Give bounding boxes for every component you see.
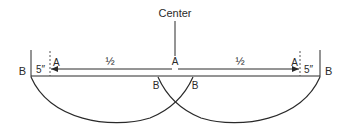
right-arc	[158, 77, 320, 123]
arc-layout-diagram: Center A A A B B B B ½ ½ 5″ 5″	[0, 0, 348, 137]
label-a-center: A	[172, 56, 179, 67]
label-half-left: ½	[105, 55, 114, 67]
label-b-inner-left: B	[153, 80, 160, 91]
label-b-inner-right: B	[192, 80, 199, 91]
label-a-left: A	[53, 57, 60, 68]
label-half-right: ½	[235, 55, 244, 67]
label-b-left: B	[19, 65, 26, 77]
left-arc	[31, 77, 193, 123]
label-a-right: A	[291, 57, 298, 68]
center-label: Center	[158, 7, 191, 19]
label-b-right: B	[325, 65, 332, 77]
label-5in-left: 5″	[36, 64, 46, 75]
label-5in-right: 5″	[304, 64, 314, 75]
